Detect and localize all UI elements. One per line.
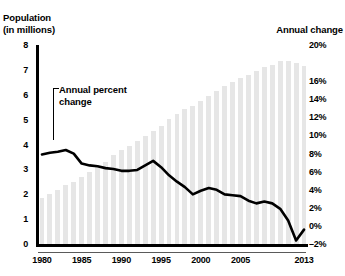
x-axis-tick-labels: 1980198519901995200020052013 (0, 0, 345, 276)
x-axis-tick-1985: 1985 (72, 255, 91, 265)
x-axis-tick-1980: 1980 (32, 255, 51, 265)
annotation-annual-percent-change: Annual percent change (59, 84, 127, 107)
x-axis-tick-1990: 1990 (112, 255, 131, 265)
population-annual-change-chart: Population (in millions) Annual change 8… (0, 0, 345, 276)
x-axis-tick-1995: 1995 (151, 255, 170, 265)
annotation-leader-line (53, 88, 54, 140)
x-axis-tick-2005: 2005 (231, 255, 250, 265)
x-axis-tick-2000: 2000 (191, 255, 210, 265)
x-axis-tick-2013: 2013 (294, 255, 313, 265)
